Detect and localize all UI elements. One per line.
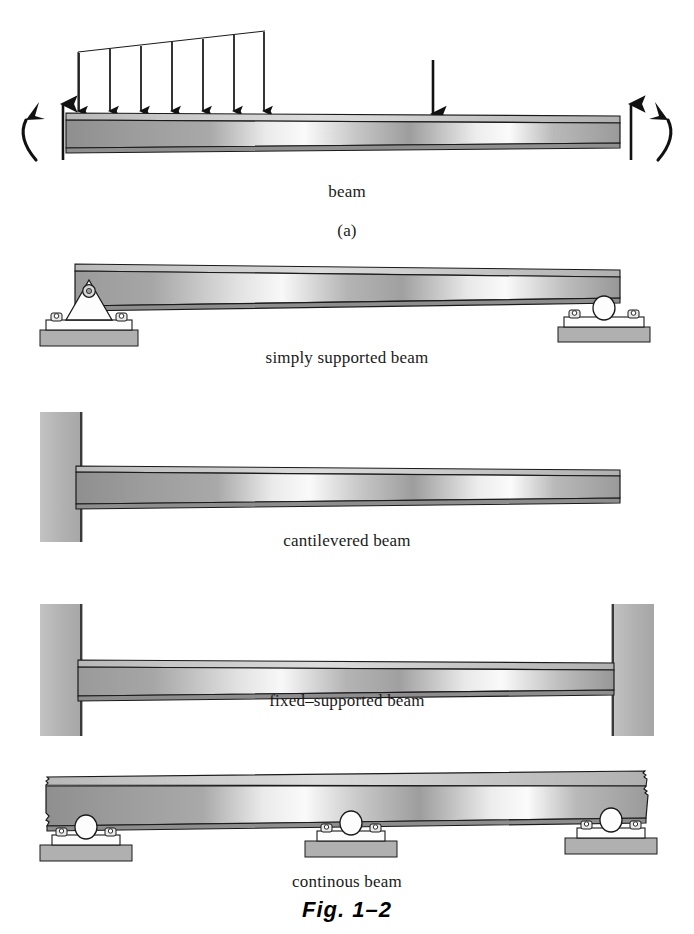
label-fixed-supported-beam: fixed–supported beam — [0, 691, 694, 711]
panel-loaded-beam — [23, 31, 671, 160]
beam-body-cantilever — [76, 466, 620, 509]
fixed-wall-support-a — [40, 604, 82, 736]
beam-body-a — [66, 113, 620, 153]
distributed-load-arrows — [79, 32, 264, 111]
label-continuous-beam: continous beam — [0, 872, 694, 892]
panel-simply-supported-beam — [40, 264, 650, 346]
figure-caption: Fig. 1–2 — [0, 897, 694, 923]
left-moment-arrow — [23, 102, 45, 160]
label-cantilevered-beam: cantilevered beam — [0, 531, 694, 551]
panel-fixed-supported-beam — [40, 604, 654, 736]
fixed-wall-support-b — [612, 604, 654, 736]
right-moment-arrow — [649, 102, 671, 160]
label-subfigure-a: (a) — [0, 221, 694, 241]
beam-types-figure — [0, 0, 694, 934]
panel-cantilevered-beam — [40, 412, 620, 542]
beam-body-simply — [75, 264, 620, 311]
label-simply-supported-beam: simply supported beam — [0, 348, 694, 368]
label-beam: beam — [0, 182, 694, 202]
panel-continuous-beam — [40, 771, 657, 861]
